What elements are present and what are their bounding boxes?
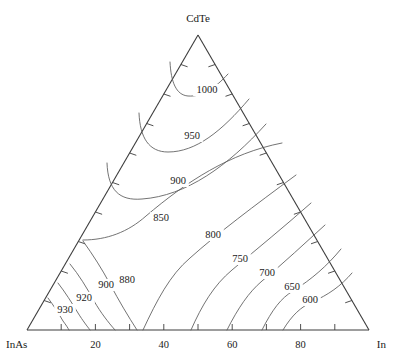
tick-left-60 bbox=[95, 212, 102, 214]
tick-left-10 bbox=[181, 65, 188, 67]
ternary-diagram-svg: 1000950900850800750700650600880900920930… bbox=[0, 0, 393, 358]
contour-line-850-3 bbox=[83, 143, 282, 240]
contour-label-900-10: 900 bbox=[98, 279, 114, 290]
tick-right-10 bbox=[208, 65, 215, 67]
contour-label-850-3: 850 bbox=[153, 212, 169, 223]
tick-left-30 bbox=[147, 124, 154, 126]
contour-label-950-1: 950 bbox=[184, 130, 200, 141]
tick-right-80 bbox=[328, 271, 335, 273]
contour-label-880-9: 880 bbox=[119, 274, 135, 285]
vertex-label-in: In bbox=[377, 338, 387, 350]
contour-label-700-6: 700 bbox=[259, 267, 275, 278]
tick-left-40 bbox=[130, 153, 137, 155]
axis-ticks bbox=[44, 65, 352, 331]
tick-left-80 bbox=[61, 271, 68, 273]
contour-label-600-8: 600 bbox=[302, 294, 318, 305]
tick-right-40 bbox=[260, 153, 267, 155]
contour-labels: 1000950900850800750700650600880900920930 bbox=[54, 84, 321, 316]
tick-right-50 bbox=[277, 183, 284, 185]
axis-tick-label-40: 40 bbox=[159, 339, 170, 350]
contour-label-650-7: 650 bbox=[284, 281, 300, 292]
contour-line-750-5 bbox=[191, 203, 311, 330]
contour-lines bbox=[48, 62, 352, 330]
tick-right-30 bbox=[243, 124, 250, 126]
contour-line-800-4 bbox=[143, 175, 296, 330]
contour-label-930-12: 930 bbox=[57, 304, 73, 315]
tick-left-20 bbox=[164, 94, 171, 96]
contour-label-920-11: 920 bbox=[76, 292, 92, 303]
vertex-label-cdte: CdTe bbox=[186, 12, 210, 24]
contour-label-800-4: 800 bbox=[205, 229, 221, 240]
tick-right-90 bbox=[345, 301, 352, 303]
axis-tick-label-60: 60 bbox=[227, 339, 238, 350]
axis-tick-label-80: 80 bbox=[295, 339, 306, 350]
triangle-frame bbox=[27, 35, 369, 330]
contour-line-950-1 bbox=[139, 99, 249, 152]
tick-left-50 bbox=[113, 183, 120, 185]
contour-label-750-5: 750 bbox=[232, 253, 248, 264]
ternary-contour-figure: 1000950900850800750700650600880900920930… bbox=[0, 0, 393, 358]
axis-tick-label-20: 20 bbox=[90, 339, 101, 350]
tick-right-20 bbox=[226, 94, 233, 96]
tick-right-70 bbox=[311, 242, 318, 244]
vertex-label-inas: InAs bbox=[6, 338, 27, 350]
contour-label-900-2: 900 bbox=[170, 175, 186, 186]
contour-label-1000-0: 1000 bbox=[197, 84, 218, 95]
